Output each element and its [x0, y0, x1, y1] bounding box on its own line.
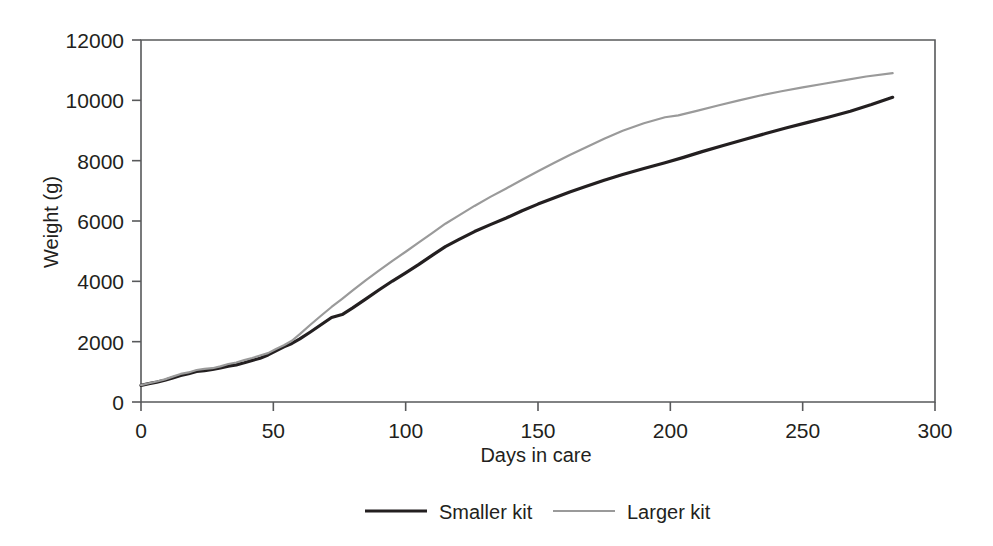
plot-frame — [141, 40, 935, 402]
x-tick-label-200: 200 — [653, 419, 688, 442]
y-tick-label-2000: 2000 — [77, 331, 124, 354]
x-tick-label-300: 300 — [917, 419, 952, 442]
y-axis-tick-labels: 020004000600080001000012000 — [66, 29, 124, 414]
y-tick-label-4000: 4000 — [77, 270, 124, 293]
x-tick-label-100: 100 — [388, 419, 423, 442]
series-line-larger-kit — [141, 73, 893, 385]
y-tick-label-0: 0 — [112, 391, 124, 414]
y-tick-label-6000: 6000 — [77, 210, 124, 233]
x-tick-label-50: 50 — [262, 419, 285, 442]
x-tick-label-250: 250 — [785, 419, 820, 442]
axis-frame — [141, 40, 935, 402]
x-tick-label-0: 0 — [135, 419, 147, 442]
y-tick-label-10000: 10000 — [66, 89, 124, 112]
y-axis-title: Weight (g) — [40, 176, 62, 268]
x-axis-tick-labels: 050100150200250300 — [135, 419, 952, 442]
legend-label-smaller-kit: Smaller kit — [439, 501, 533, 523]
x-tick-label-150: 150 — [520, 419, 555, 442]
legend-label-larger-kit: Larger kit — [627, 501, 711, 523]
chart-figure: 050100150200250300 020004000600080001000… — [0, 0, 993, 546]
y-tick-label-12000: 12000 — [66, 29, 124, 52]
chart-legend: Smaller kitLarger kit — [365, 501, 711, 523]
tick-marks — [132, 40, 935, 411]
series-line-smaller-kit — [141, 97, 893, 385]
data-series-group — [141, 73, 893, 385]
x-axis-title: Days in care — [480, 444, 591, 466]
y-tick-label-8000: 8000 — [77, 150, 124, 173]
line-chart: 050100150200250300 020004000600080001000… — [0, 0, 993, 546]
